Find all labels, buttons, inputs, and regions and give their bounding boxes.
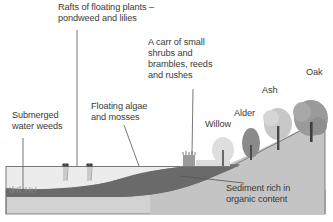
label-algae: Floating algae and mosses: [91, 101, 147, 123]
leader-algae: [124, 125, 139, 166]
label-rafts-line2: pondweed and lilies: [58, 13, 154, 24]
label-alder: Alder: [234, 108, 255, 119]
label-rafts: Rafts of floating plants – pondweed and …: [58, 2, 154, 24]
label-carr: A carr of small shrubs and brambles, ree…: [148, 37, 212, 81]
leader-carr: [192, 89, 193, 155]
label-carr-line2: shrubs and: [148, 48, 212, 59]
label-submerged-line2: water weeds: [12, 121, 62, 132]
label-ash: Ash: [262, 85, 278, 96]
label-submerged: Submerged water weeds: [12, 110, 62, 132]
label-carr-line1: A carr of small: [148, 37, 212, 48]
label-algae-line1: Floating algae: [91, 101, 147, 112]
label-sediment-line2: organic content: [226, 194, 290, 205]
label-sediment: Sediment rich in organic content: [226, 183, 290, 205]
label-submerged-line1: Submerged: [12, 110, 62, 121]
label-carr-line3: brambles, reeds: [148, 59, 212, 70]
label-algae-line2: and mosses: [91, 112, 147, 123]
label-willow: Willow: [205, 119, 231, 130]
label-oak: Oak: [306, 67, 323, 78]
label-carr-line4: and rushes: [148, 70, 212, 81]
label-rafts-line1: Rafts of floating plants –: [58, 2, 154, 13]
label-sediment-line1: Sediment rich in: [226, 183, 290, 194]
